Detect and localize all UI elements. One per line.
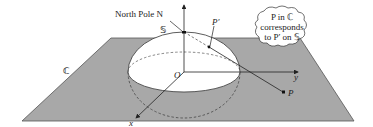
point-p-prime-marker bbox=[208, 46, 211, 49]
point-p-prime-label: P′ bbox=[211, 17, 220, 27]
origin-label: O bbox=[174, 70, 181, 80]
point-p-label: P bbox=[287, 88, 294, 98]
stereographic-projection-diagram: North Pole N 𝕊 ℂ O x y P P′ P in ℂ corre… bbox=[0, 0, 373, 127]
callout-line-2: corresponds bbox=[260, 22, 304, 32]
north-pole-leader bbox=[170, 21, 182, 31]
plane-label: ℂ bbox=[63, 66, 70, 76]
point-p-marker bbox=[282, 91, 285, 94]
callout-line-3: to P′ on 𝕊 bbox=[264, 32, 300, 42]
callout-line-1: P in ℂ bbox=[271, 12, 293, 22]
x-axis-label: x bbox=[128, 118, 133, 127]
y-axis-label: y bbox=[293, 72, 298, 82]
sphere-label: 𝕊 bbox=[160, 25, 166, 35]
north-pole-label: North Pole N bbox=[115, 9, 163, 19]
north-pole-marker bbox=[182, 31, 186, 34]
